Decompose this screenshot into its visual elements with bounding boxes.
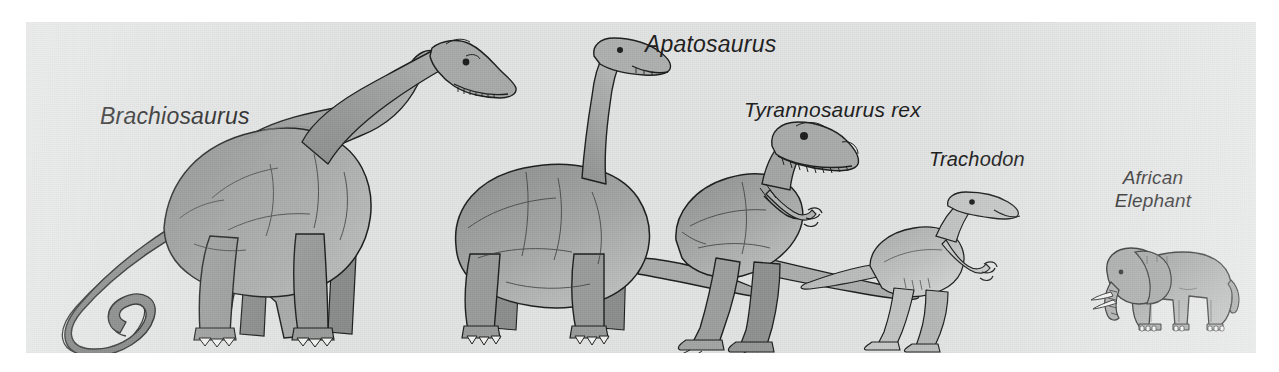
tyrannosaurus-eye <box>800 132 808 140</box>
label-apatosaurus-text: Apatosaurus <box>645 31 776 57</box>
elephant-eye <box>1119 270 1124 275</box>
label-tyrannosaurus-rex-text: Tyrannosaurus rex <box>744 98 921 121</box>
label-tyrannosaurus-rex: Tyrannosaurus rex <box>744 98 921 122</box>
trachodon-far-leg <box>916 290 948 348</box>
trachodon-illustration <box>826 192 1056 353</box>
illustration-panel: Brachiosaurus Apatosaurus Tyrannosaurus … <box>26 22 1256 353</box>
trachodon-near-leg <box>878 288 914 346</box>
apatosaurus-hindleg <box>572 254 604 332</box>
apatosaurus-eye <box>617 47 623 53</box>
label-trachodon-text: Trachodon <box>929 148 1025 170</box>
label-african-elephant-line2: Elephant <box>1098 189 1208 212</box>
brachiosaurus-illustration <box>26 22 434 353</box>
label-trachodon: Trachodon <box>929 148 1025 171</box>
trachodon-eye <box>969 199 975 205</box>
label-brachiosaurus-text: Brachiosaurus <box>100 103 250 129</box>
label-african-elephant: African Elephant <box>1098 166 1208 212</box>
african-elephant-illustration <box>1091 242 1256 353</box>
apatosaurus-foreleg <box>465 254 500 332</box>
size-comparison-figure: Brachiosaurus Apatosaurus Tyrannosaurus … <box>0 0 1279 372</box>
brachiosaurus-hindleg <box>294 234 328 334</box>
apatosaurus-neck <box>582 54 622 184</box>
label-african-elephant-line1: African <box>1098 166 1208 189</box>
label-apatosaurus: Apatosaurus <box>645 31 776 58</box>
label-brachiosaurus: Brachiosaurus <box>100 103 250 130</box>
